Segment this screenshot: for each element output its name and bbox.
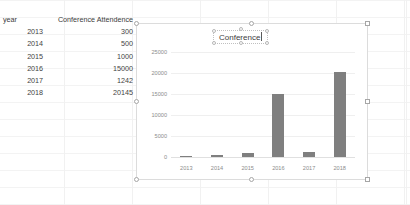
- column-header-year: year: [0, 14, 46, 26]
- y-axis-tick-label: 5000: [155, 133, 167, 139]
- y-axis-labels: 0500010000150002000025000: [137, 52, 170, 157]
- x-axis-tick-label: 2017: [294, 165, 325, 171]
- chart-plot-area[interactable]: [171, 52, 355, 157]
- title-handle-bottom-middle[interactable]: [239, 41, 243, 45]
- chart-handle-middle-right[interactable]: [365, 99, 370, 104]
- y-axis-tick-label: 20000: [151, 70, 167, 76]
- cell-year[interactable]: 2018: [0, 87, 46, 99]
- cell-year[interactable]: 2016: [0, 63, 46, 75]
- chart-handle-middle-left[interactable]: [134, 99, 139, 104]
- table-header-row: year Conference Attendence: [0, 14, 136, 26]
- bar-slot[interactable]: [171, 52, 202, 157]
- chart-bars[interactable]: [171, 52, 355, 157]
- cell-attendance[interactable]: 500: [46, 38, 136, 50]
- title-handle-top-right[interactable]: [265, 29, 269, 33]
- title-handle-bottom-left[interactable]: [212, 41, 216, 45]
- bar-slot[interactable]: [263, 52, 294, 157]
- gridline: [171, 157, 355, 158]
- chart-handle-bottom-left[interactable]: [134, 177, 139, 182]
- table-body: 2013300201450020151000201615000201712422…: [0, 26, 136, 99]
- y-axis-tick-label: 10000: [151, 112, 167, 118]
- table-row[interactable]: 201820145: [0, 87, 136, 99]
- bar-2018[interactable]: [334, 72, 346, 157]
- table-row[interactable]: 2013300: [0, 26, 136, 38]
- cell-year[interactable]: 2017: [0, 75, 46, 87]
- bar-slot[interactable]: [202, 52, 233, 157]
- x-axis-tick-label: 2018: [324, 165, 355, 171]
- bar-slot[interactable]: [324, 52, 355, 157]
- chart-handle-top-middle[interactable]: [249, 21, 254, 26]
- cell-attendance[interactable]: 1000: [46, 51, 136, 63]
- chart-handle-top-right[interactable]: [365, 21, 370, 26]
- table-row[interactable]: 201615000: [0, 63, 136, 75]
- data-table[interactable]: year Conference Attendence 2013300201450…: [0, 14, 136, 99]
- embedded-chart[interactable]: Conference 0500010000150002000025000 201…: [136, 23, 368, 180]
- bar-2017[interactable]: [303, 152, 315, 157]
- text-caret: [261, 32, 262, 41]
- bar-2014[interactable]: [211, 155, 223, 157]
- title-handle-top-left[interactable]: [212, 29, 216, 33]
- table-row[interactable]: 20151000: [0, 51, 136, 63]
- cell-attendance[interactable]: 1242: [46, 75, 136, 87]
- x-axis-tick-label: 2015: [232, 165, 263, 171]
- chart-title-editbox[interactable]: Conference: [213, 30, 268, 44]
- table-row[interactable]: 20171242: [0, 75, 136, 87]
- cell-attendance[interactable]: 15000: [46, 63, 136, 75]
- x-axis-tick-label: 2014: [202, 165, 233, 171]
- cell-year[interactable]: 2015: [0, 51, 46, 63]
- bar-slot[interactable]: [294, 52, 325, 157]
- bar-2016[interactable]: [272, 94, 284, 157]
- table-row[interactable]: 2014500: [0, 38, 136, 50]
- x-axis-tick-label: 2016: [263, 165, 294, 171]
- cell-attendance[interactable]: 300: [46, 26, 136, 38]
- cell-year[interactable]: 2013: [0, 26, 46, 38]
- bar-slot[interactable]: [232, 52, 263, 157]
- cell-attendance[interactable]: 20145: [46, 87, 136, 99]
- bar-2013[interactable]: [180, 156, 192, 157]
- chart-handle-top-left[interactable]: [134, 21, 139, 26]
- x-axis-labels: 201320142015201620172018: [171, 165, 355, 171]
- chart-handle-bottom-middle[interactable]: [249, 177, 254, 182]
- y-axis-tick-label: 25000: [151, 49, 167, 55]
- column-header-attendance: Conference Attendence: [46, 14, 136, 26]
- x-axis-tick-label: 2013: [171, 165, 202, 171]
- chart-handle-bottom-right[interactable]: [365, 177, 370, 182]
- bar-2015[interactable]: [242, 153, 254, 157]
- title-handle-bottom-right[interactable]: [265, 41, 269, 45]
- title-handle-top-middle[interactable]: [239, 27, 243, 31]
- cell-year[interactable]: 2014: [0, 38, 46, 50]
- y-axis-tick-label: 0: [164, 154, 167, 160]
- y-axis-tick-label: 15000: [151, 91, 167, 97]
